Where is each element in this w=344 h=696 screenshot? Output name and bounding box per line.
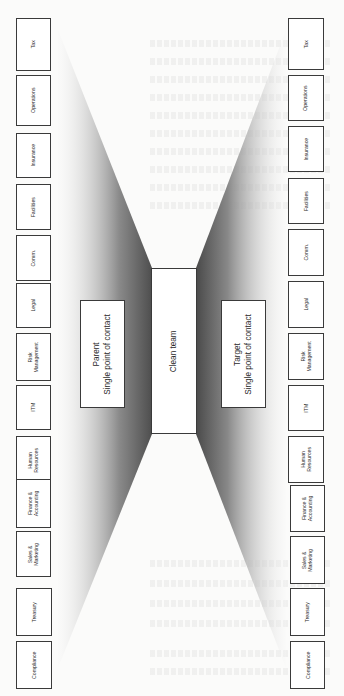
target-function-insurance: Insurance bbox=[288, 126, 324, 172]
parent-subtitle: Single point of contact bbox=[103, 314, 114, 395]
target-contact-box: Target Single point of contact bbox=[221, 300, 266, 408]
target-function-comm: Comm. bbox=[288, 229, 324, 276]
parent-function-human-resources: HumanResources bbox=[16, 436, 51, 484]
parent-function-operations: Operations bbox=[16, 75, 51, 126]
parent-function-comm: Comm. bbox=[16, 235, 51, 281]
parent-function-risk-management: RiskManagement bbox=[16, 333, 51, 381]
target-function-tax: Tax bbox=[288, 18, 324, 70]
clean-team-box: Clean team bbox=[151, 268, 197, 434]
parent-contact-box: Parent Single point of contact bbox=[80, 300, 125, 408]
parent-function-insurance: Insurance bbox=[16, 133, 51, 178]
target-function-treasury: Treasury bbox=[290, 588, 325, 636]
target-function-finance-accounting: Finance &Accounting bbox=[290, 485, 325, 532]
parent-function-itm: ITM bbox=[16, 385, 51, 430]
parent-function-facilities: Facilities bbox=[16, 184, 51, 230]
target-function-sales-marketing: Sales &Marketing bbox=[290, 536, 325, 584]
parent-function-legal: Legal bbox=[16, 283, 51, 328]
parent-function-tax: Tax bbox=[16, 18, 51, 71]
clean-team-label: Clean team bbox=[169, 330, 180, 372]
parent-function-sales-marketing: Sales &Marketing bbox=[16, 531, 51, 577]
parent-title: Parent bbox=[92, 314, 103, 395]
parent-function-finance-accounting: Finance &Accounting bbox=[16, 479, 51, 528]
target-title: Target bbox=[233, 314, 244, 395]
target-function-facilities: Facilities bbox=[288, 178, 324, 224]
target-function-itm: ITM bbox=[288, 385, 324, 431]
target-function-compliance: Compliance bbox=[290, 641, 325, 689]
target-subtitle: Single point of contact bbox=[244, 314, 255, 395]
target-function-risk-management: RiskManagement bbox=[288, 333, 324, 380]
target-function-human-resources: HumanResources bbox=[288, 436, 324, 483]
parent-function-treasury: Treasury bbox=[16, 588, 52, 636]
target-function-legal: Legal bbox=[288, 281, 324, 328]
parent-function-compliance: Compliance bbox=[16, 641, 52, 689]
target-function-operations: Operations bbox=[288, 75, 324, 121]
